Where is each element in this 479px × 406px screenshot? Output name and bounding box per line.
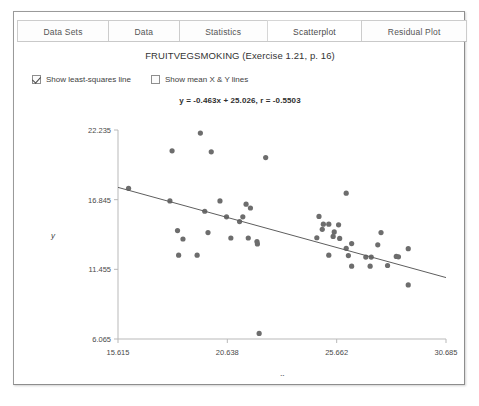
page-title: FRUITVEGSMOKING (Exercise 1.21, p. 16) <box>14 50 466 61</box>
option-mean-xy-lines-label: Show mean X & Y lines <box>165 75 248 84</box>
y-tick-label: 11.455 <box>89 265 111 274</box>
y-tick-label: 16.845 <box>88 196 111 205</box>
data-point <box>198 130 203 135</box>
tab-scatterplot[interactable]: Scatterplot <box>267 20 363 42</box>
data-point <box>240 214 245 219</box>
data-point <box>326 253 331 258</box>
tab-bar: Data Sets Data Statistics Scatterplot Re… <box>14 18 466 42</box>
data-point <box>375 242 380 247</box>
data-point <box>248 205 253 210</box>
data-point <box>331 234 336 239</box>
data-point <box>205 230 210 235</box>
data-point <box>314 235 319 240</box>
data-point <box>321 222 326 227</box>
tab-statistics[interactable]: Statistics <box>179 20 268 42</box>
data-point <box>320 227 325 232</box>
data-point <box>346 253 351 258</box>
data-point <box>368 264 373 269</box>
x-tick-label: 30.685 <box>435 348 458 357</box>
data-point <box>316 214 321 219</box>
checkbox-least-squares-line[interactable] <box>32 75 41 84</box>
data-point <box>257 331 262 336</box>
data-point <box>209 149 214 154</box>
data-point <box>344 191 349 196</box>
x-axis-ticks: 15.61520.63825.66230.685 <box>107 339 458 357</box>
scatterplot-panel: Data Sets Data Statistics Scatterplot Re… <box>13 11 465 385</box>
data-point <box>255 241 260 246</box>
data-point <box>396 254 401 259</box>
data-point <box>263 155 268 160</box>
data-point <box>385 263 390 268</box>
y-tick-label: 22.235 <box>88 126 111 135</box>
data-point <box>169 148 174 153</box>
option-least-squares-line[interactable]: Show least-squares line <box>32 75 131 84</box>
data-point <box>332 229 337 234</box>
scatterplot-svg: 6.06511.45516.84522.235 15.61520.63825.6… <box>19 108 461 376</box>
tab-data[interactable]: Data <box>108 20 180 42</box>
data-point <box>195 253 200 258</box>
data-point <box>406 282 411 287</box>
plot-options: Show least-squares line Show mean X & Y … <box>32 75 268 84</box>
y-axis-label: y <box>50 231 56 240</box>
regression-equation: y = -0.463x + 25.026, r = -0.5503 <box>14 96 466 105</box>
data-point <box>326 222 331 227</box>
checkbox-mean-xy-lines[interactable] <box>151 75 160 84</box>
data-point <box>176 253 181 258</box>
x-tick-label: 15.615 <box>107 348 130 357</box>
x-tick-label: 20.638 <box>216 348 239 357</box>
data-point <box>217 198 222 203</box>
data-point <box>175 228 180 233</box>
data-point <box>406 246 411 251</box>
option-least-squares-line-label: Show least-squares line <box>46 75 131 84</box>
tab-strip-divider <box>17 41 463 42</box>
data-point <box>180 236 185 241</box>
tab-residual-plot[interactable]: Residual Plot <box>361 20 467 42</box>
option-mean-xy-lines[interactable]: Show mean X & Y lines <box>151 75 248 84</box>
data-point <box>243 202 248 207</box>
data-point <box>378 230 383 235</box>
tab-data-sets[interactable]: Data Sets <box>17 20 109 42</box>
least-squares-line <box>118 187 446 277</box>
x-tick-label: 25.662 <box>325 348 348 357</box>
scatterplot-chart: 6.06511.45516.84522.235 15.61520.63825.6… <box>19 108 461 376</box>
data-point <box>336 222 341 227</box>
data-point <box>337 236 342 241</box>
y-axis-ticks: 6.06511.45516.84522.235 <box>88 126 118 344</box>
data-points <box>126 130 411 336</box>
data-point <box>228 235 233 240</box>
data-point <box>246 235 251 240</box>
data-point <box>349 241 354 246</box>
data-point <box>349 264 354 269</box>
x-axis-label: x <box>279 372 285 376</box>
y-tick-label: 6.065 <box>92 335 111 344</box>
